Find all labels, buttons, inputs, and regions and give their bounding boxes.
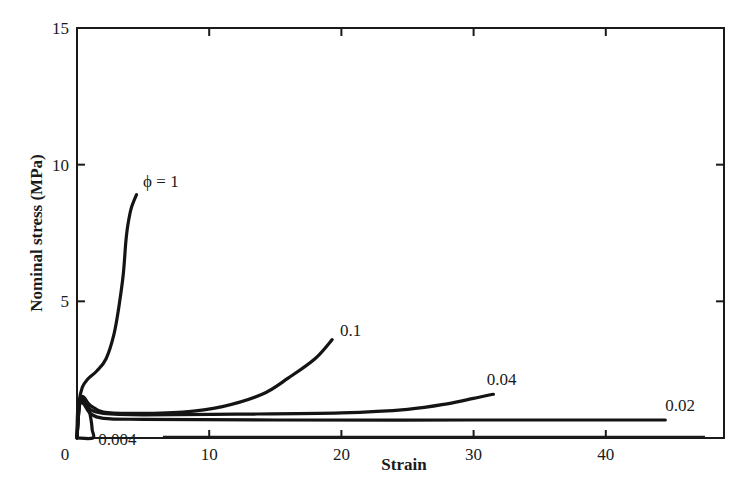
x-tick-label: 10	[201, 445, 218, 464]
curve-0-1	[77, 340, 332, 438]
y-axis-label: Nominal stress (MPa)	[27, 154, 46, 311]
x-tick-label: 0	[61, 445, 70, 464]
curves	[77, 195, 705, 439]
axis-tick-labels: 01020304051015	[52, 19, 614, 464]
series-label-0-04: 0.04	[487, 370, 517, 389]
curve-0-04	[77, 394, 493, 438]
axis-ticks	[77, 28, 724, 438]
stress-strain-chart: 01020304051015 ϕ = 10.10.040.020.004 Str…	[0, 0, 744, 500]
y-tick-label: 15	[52, 19, 69, 38]
series-label-0-02: 0.02	[665, 396, 695, 415]
series-label-0-1: 0.1	[340, 321, 361, 340]
y-tick-label: 5	[61, 292, 70, 311]
x-tick-label: 40	[597, 445, 614, 464]
series-label-0-004: 0.004	[98, 430, 137, 449]
x-axis-label: Strain	[381, 455, 427, 474]
plot-frame	[77, 28, 724, 438]
series-label-1: ϕ = 1	[143, 172, 179, 191]
curve-0-02	[77, 402, 665, 438]
series-labels: ϕ = 10.10.040.020.004	[98, 172, 695, 449]
x-tick-label: 20	[333, 445, 350, 464]
y-tick-label: 10	[52, 156, 69, 175]
x-tick-label: 30	[465, 445, 482, 464]
